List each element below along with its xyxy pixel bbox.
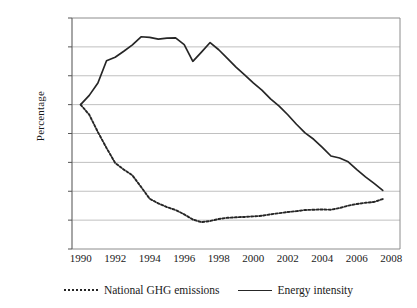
series-line-national-ghg-emissions (81, 105, 383, 223)
x-tick-label: 2008 (369, 252, 413, 264)
legend-label: Energy intensity (278, 284, 354, 296)
legend-swatch-solid-icon (238, 290, 272, 291)
y-axis-tick-labels: 3020100–10–20–30–40–50 (0, 0, 66, 308)
chart-figure: Percentage 3020100–10–20–30–40–50 199019… (0, 0, 417, 308)
legend-swatch-dotted-icon (64, 289, 98, 291)
legend-item-national-ghg-emissions: National GHG emissions (64, 284, 220, 296)
legend-label: National GHG emissions (104, 284, 220, 296)
legend-item-energy-intensity: Energy intensity (238, 284, 354, 296)
chart-legend: National GHG emissions Energy intensity (0, 279, 417, 301)
series-line-energy-intensity (81, 37, 383, 191)
